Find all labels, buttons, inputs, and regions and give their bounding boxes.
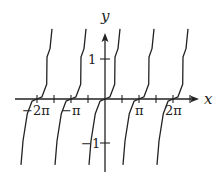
y-tick-label-1: 1 (88, 52, 96, 67)
x-tick-label-pi: π (135, 103, 144, 118)
y-tick-label-neg1: −1 (81, 136, 100, 151)
x-tick-label-neg2pi: −2π (22, 103, 50, 118)
function-graph: x y 1 −1 −2π −π π 2π (0, 0, 224, 174)
x-tick-label-negpi: −π (61, 103, 81, 118)
y-axis (100, 33, 110, 172)
y-axis-label: y (100, 7, 110, 25)
x-tick-label-2pi: 2π (165, 103, 182, 118)
x-axis-label: x (204, 90, 213, 108)
